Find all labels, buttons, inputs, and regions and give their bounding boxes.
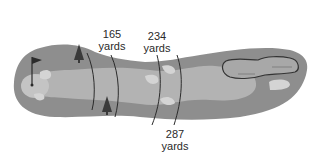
distance-label-287: 287 yards	[155, 128, 195, 152]
bunker	[40, 70, 51, 79]
hole-cup	[31, 84, 34, 87]
distance-value: 165	[92, 28, 132, 40]
distance-value: 234	[137, 30, 177, 42]
distance-unit: yards	[155, 140, 195, 152]
distance-value: 287	[155, 128, 195, 140]
distance-unit: yards	[92, 40, 132, 52]
golf-hole-diagram: 165 yards 234 yards 287 yards	[0, 0, 315, 163]
distance-unit: yards	[137, 42, 177, 54]
distance-label-234: 234 yards	[137, 30, 177, 54]
distance-label-165: 165 yards	[92, 28, 132, 52]
